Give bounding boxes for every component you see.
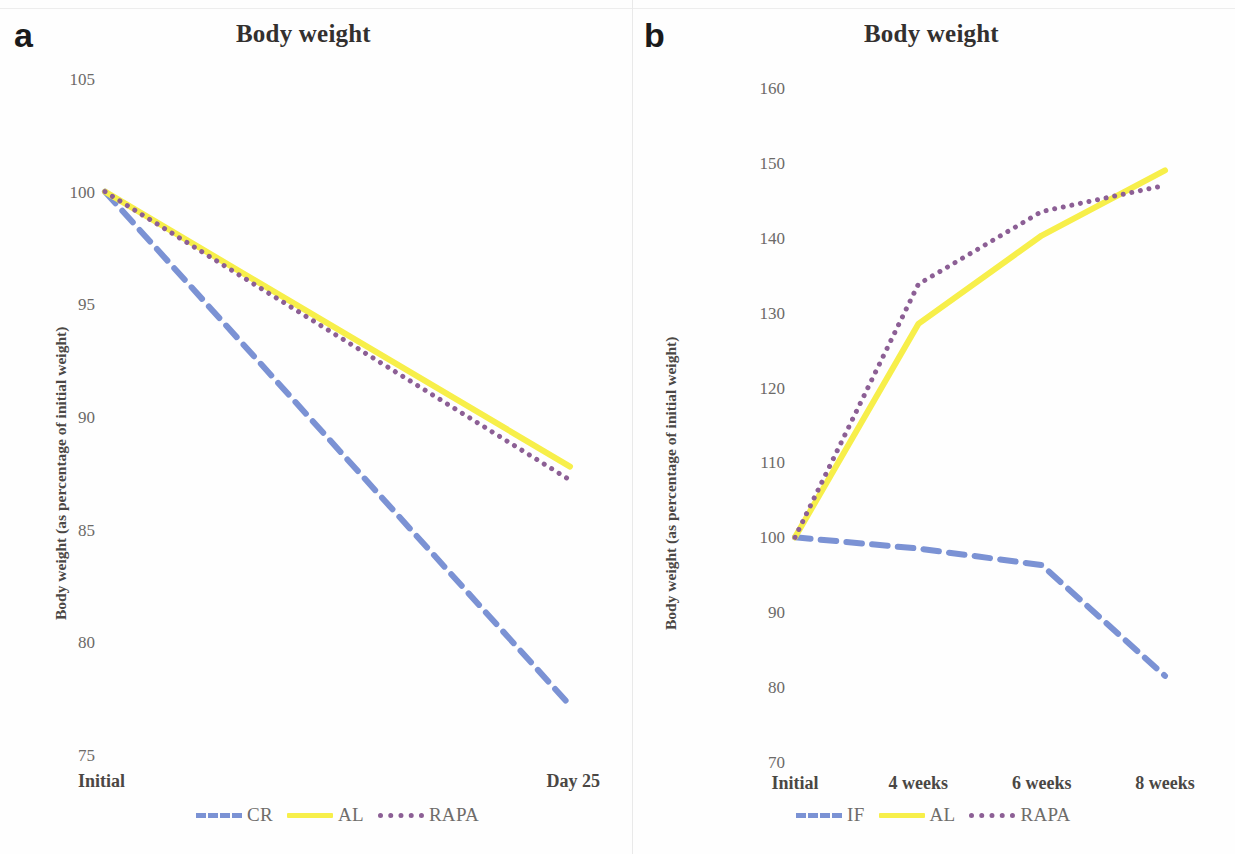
x-tick-label: Initial [771, 773, 818, 793]
y-tick-label: 90 [78, 408, 95, 427]
y-tick-label: 90 [768, 603, 785, 622]
series-line-al [105, 192, 570, 467]
legend-label: AL [930, 804, 956, 826]
panel-a-legend: CRALRAPA [196, 804, 479, 826]
series-line-rapa [795, 185, 1165, 537]
legend-label: AL [338, 804, 364, 826]
x-tick-label: Initial [78, 771, 125, 791]
legend-label: CR [247, 804, 273, 826]
y-tick-label: 110 [760, 453, 785, 472]
panel-b: b Body weight Body weight (as percentage… [632, 0, 1235, 854]
series-line-cr [105, 192, 570, 706]
y-tick-label: 130 [760, 304, 786, 323]
y-tick-label: 160 [760, 79, 786, 98]
y-tick-label: 70 [768, 753, 785, 772]
series-line-if [795, 537, 1165, 676]
y-tick-label: 100 [760, 528, 786, 547]
x-tick-label: 4 weeks [889, 773, 949, 793]
panel-a-plot: 1051009590858075InitialDay 25 [0, 0, 632, 800]
legend-swatch-dotted-icon [378, 813, 424, 818]
legend-label: RAPA [1020, 804, 1070, 826]
y-tick-label: 80 [768, 678, 785, 697]
legend-swatch-solid-icon [879, 813, 925, 818]
y-tick-label: 80 [78, 633, 95, 652]
legend-item-rapa[interactable]: RAPA [378, 804, 479, 826]
legend-swatch-dotted-icon [969, 813, 1015, 818]
legend-item-rapa[interactable]: RAPA [969, 804, 1070, 826]
legend-swatch-dashed-icon [196, 813, 242, 818]
series-line-al [795, 170, 1165, 537]
y-tick-label: 75 [78, 746, 95, 765]
panel-a: a Body weight Body weight (as percentage… [0, 0, 632, 854]
y-tick-label: 85 [78, 521, 95, 540]
panel-b-plot: 160150140130120110100908070Initial4 week… [632, 0, 1235, 800]
legend-item-cr[interactable]: CR [196, 804, 273, 826]
legend-item-if[interactable]: IF [796, 804, 865, 826]
y-tick-label: 105 [70, 70, 96, 89]
legend-swatch-solid-icon [287, 813, 333, 818]
y-tick-label: 95 [78, 295, 95, 314]
legend-item-al[interactable]: AL [287, 804, 364, 826]
x-tick-label: Day 25 [547, 771, 601, 791]
y-tick-label: 140 [760, 229, 786, 248]
legend-item-al[interactable]: AL [879, 804, 956, 826]
legend-label: IF [847, 804, 865, 826]
panel-b-legend: IFALRAPA [796, 804, 1071, 826]
figure-container: a Body weight Body weight (as percentage… [0, 0, 1235, 854]
legend-swatch-dashed-icon [796, 813, 842, 818]
legend-label: RAPA [429, 804, 479, 826]
y-tick-label: 120 [760, 379, 786, 398]
y-tick-label: 150 [760, 154, 786, 173]
y-tick-label: 100 [70, 183, 96, 202]
x-tick-label: 8 weeks [1135, 773, 1195, 793]
x-tick-label: 6 weeks [1012, 773, 1072, 793]
